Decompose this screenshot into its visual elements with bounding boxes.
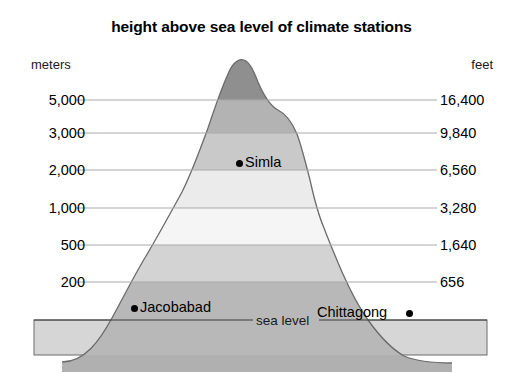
climate-station-elevation-chart: height above sea level of climate statio…	[0, 0, 523, 373]
station-dot-simla	[236, 160, 243, 167]
left-tick-5000: 5,000	[49, 93, 85, 108]
station-label-simla: Simla	[245, 155, 281, 170]
station-dot-jacobabad	[131, 305, 138, 312]
right-tick-3280: 3,280	[440, 201, 476, 216]
station-label-chittagong: Chittagong	[317, 305, 387, 320]
left-axis-unit-label: meters	[31, 57, 71, 72]
right-tick-1640: 1,640	[440, 238, 476, 253]
left-tick-2000: 2,000	[49, 163, 85, 178]
station-label-jacobabad: Jacobabad	[140, 300, 211, 315]
left-tick-500: 500	[61, 238, 85, 253]
station-dot-chittagong	[406, 310, 413, 317]
left-tick-200: 200	[61, 275, 85, 290]
left-tick-3000: 3,000	[49, 126, 85, 141]
right-tick-16400: 16,400	[440, 93, 484, 108]
left-tick-1000: 1,000	[49, 201, 85, 216]
right-tick-9840: 9,840	[440, 126, 476, 141]
sea-level-label: sea level	[256, 314, 309, 328]
right-axis-unit-label: feet	[471, 57, 493, 72]
right-tick-656: 656	[440, 275, 464, 290]
right-tick-6560: 6,560	[440, 163, 476, 178]
